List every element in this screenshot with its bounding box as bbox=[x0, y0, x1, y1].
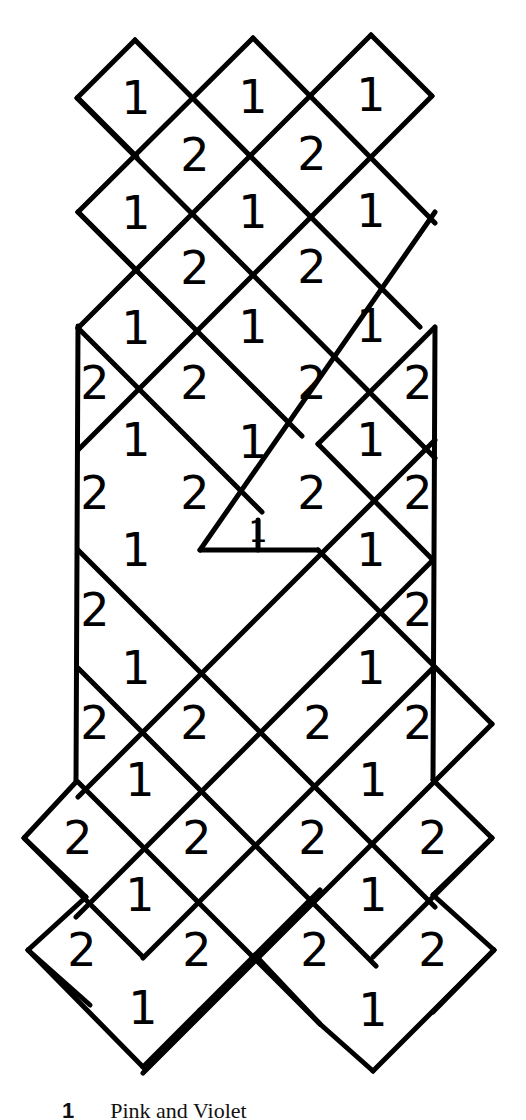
cell-label-one: 1 bbox=[356, 523, 385, 577]
cell-label-two: 2 bbox=[403, 583, 432, 637]
caption-number: 1 bbox=[62, 1098, 74, 1120]
cell-label-two: 2 bbox=[297, 466, 326, 520]
cell-label-one: 1 bbox=[121, 301, 150, 355]
cell-label-one: 1 bbox=[238, 70, 267, 124]
cell-label-two: 2 bbox=[80, 356, 109, 410]
cell-label-one: 1 bbox=[356, 641, 385, 695]
cell-label-one: 1 bbox=[238, 415, 267, 469]
caption-text: Pink and Violet bbox=[110, 1098, 246, 1120]
cell-label-two: 2 bbox=[80, 466, 109, 520]
cell-label-two: 2 bbox=[297, 127, 326, 181]
cell-label-one: 1 bbox=[358, 753, 387, 807]
cell-label-two: 2 bbox=[180, 128, 209, 182]
cell-label-two: 2 bbox=[300, 923, 329, 977]
cell-label-one: 1 bbox=[121, 186, 150, 240]
cell-label-two: 2 bbox=[182, 811, 211, 865]
cell-label-two: 2 bbox=[63, 811, 92, 865]
cell-label-two: 2 bbox=[180, 466, 209, 520]
cell-label-two: 2 bbox=[418, 811, 447, 865]
cell-label-one: 1 bbox=[248, 514, 267, 549]
cell-label-one: 1 bbox=[121, 523, 150, 577]
cell-label-one: 1 bbox=[356, 299, 385, 353]
cell-label-two: 2 bbox=[403, 356, 432, 410]
cell-label-one: 1 bbox=[121, 71, 150, 125]
cell-label-one: 1 bbox=[121, 413, 150, 467]
cell-label-two: 2 bbox=[403, 696, 432, 750]
cell-label-two: 2 bbox=[403, 466, 432, 520]
cell-label-one: 1 bbox=[356, 184, 385, 238]
cell-label-one: 1 bbox=[356, 68, 385, 122]
cell-label-two: 2 bbox=[298, 811, 327, 865]
cell-label-one: 1 bbox=[121, 641, 150, 695]
figure-caption: 1Pink and Violet bbox=[62, 1098, 247, 1120]
diamond-pattern-diagram: 1112211122111222211122221112211222211222… bbox=[0, 0, 526, 1120]
cell-label-two: 2 bbox=[297, 356, 326, 410]
cell-label-one: 1 bbox=[356, 413, 385, 467]
cell-label-two: 2 bbox=[180, 696, 209, 750]
cell-label-one: 1 bbox=[125, 868, 154, 922]
cell-label-two: 2 bbox=[418, 923, 447, 977]
cell-label-one: 1 bbox=[125, 753, 154, 807]
cell-label-two: 2 bbox=[180, 356, 209, 410]
cell-label-two: 2 bbox=[182, 923, 211, 977]
cell-label-two: 2 bbox=[80, 583, 109, 637]
cell-label-one: 1 bbox=[238, 300, 267, 354]
cell-label-two: 2 bbox=[67, 923, 96, 977]
cell-label-one: 1 bbox=[358, 868, 387, 922]
cell-label-one: 1 bbox=[358, 983, 387, 1037]
cell-label-two: 2 bbox=[180, 241, 209, 295]
cell-label-two: 2 bbox=[303, 696, 332, 750]
cell-label-one: 1 bbox=[238, 185, 267, 239]
cell-label-one: 1 bbox=[128, 981, 157, 1035]
cell-label-two: 2 bbox=[80, 696, 109, 750]
cell-label-two: 2 bbox=[297, 240, 326, 294]
